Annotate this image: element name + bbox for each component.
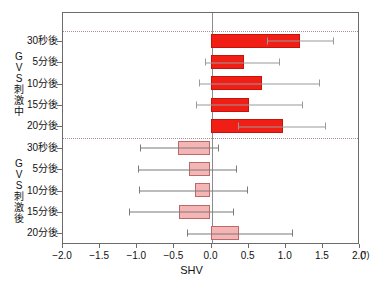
error-bar-cap-high — [279, 59, 280, 66]
error-bar-line — [139, 190, 248, 191]
error-bar-cap-low — [140, 144, 141, 151]
shv-bar-chart: 30秒後5分後10分後15分後20分後30秒後5分後10分後15分後20分後 G… — [0, 0, 383, 285]
y-tick-label: 15分後 — [0, 207, 58, 217]
y-tick-mark — [57, 212, 62, 213]
y-tick-label: 10分後 — [0, 186, 58, 196]
y-tick-mark — [57, 169, 62, 170]
error-bar-cap-high — [236, 166, 237, 173]
x-tick-label: 0.5 — [241, 250, 255, 261]
error-bar-line — [267, 41, 334, 42]
error-bar-20分後 — [187, 230, 293, 237]
y-tick-label: 15分後 — [0, 100, 58, 110]
y-tick-label: 30秒後 — [0, 36, 58, 46]
y-tick-label: 20分後 — [0, 228, 58, 238]
x-tick-label: 0.0 — [204, 250, 218, 261]
error-bar-10分後 — [199, 80, 320, 87]
y-tick-label: 10分後 — [0, 79, 58, 89]
error-bar-5分後 — [138, 166, 237, 173]
error-bar-cap-high — [319, 80, 320, 87]
error-bar-cap-high — [218, 144, 219, 151]
error-bar-5分後 — [205, 59, 279, 66]
y-tick-mark — [57, 233, 62, 234]
error-bar-15分後 — [196, 101, 303, 108]
error-bar-30秒後 — [140, 144, 219, 151]
y-tick-mark — [57, 105, 62, 106]
x-tick-label: −1.0 — [126, 250, 146, 261]
y-tick-mark — [57, 84, 62, 85]
x-tick-mark — [136, 244, 137, 248]
error-bar-cap-high — [333, 37, 334, 44]
x-axis-title: SHV — [0, 264, 383, 276]
x-tick-label: 1.0 — [278, 250, 292, 261]
error-bar-cap-low — [138, 166, 139, 173]
x-tick-mark — [62, 244, 63, 248]
y-tick-mark — [57, 126, 62, 127]
x-tick-mark — [359, 244, 360, 248]
error-bar-line — [238, 126, 326, 127]
error-bar-line — [129, 212, 234, 213]
error-bar-cap-high — [302, 101, 303, 108]
x-axis-unit: (°) — [360, 250, 370, 261]
error-bar-cap-high — [292, 230, 293, 237]
x-tick-mark — [173, 244, 174, 248]
error-bar-line — [140, 148, 219, 149]
error-bar-cap-low — [238, 123, 239, 130]
error-bar-line — [199, 83, 320, 84]
error-bar-cap-low — [196, 101, 197, 108]
error-bar-line — [187, 233, 293, 234]
x-tick-mark — [211, 244, 212, 248]
error-bar-line — [196, 105, 303, 106]
error-bar-30秒後 — [267, 37, 334, 44]
y-tick-mark — [57, 191, 62, 192]
x-tick-label: −0.5 — [164, 250, 184, 261]
x-tick-mark — [322, 244, 323, 248]
x-tick-mark — [285, 244, 286, 248]
error-bar-cap-high — [325, 123, 326, 130]
y-tick-mark — [57, 41, 62, 42]
group-label-2: G V S 刺 激 後 — [12, 158, 26, 224]
y-tick-mark — [57, 148, 62, 149]
x-tick-mark — [99, 244, 100, 248]
error-bar-cap-low — [129, 208, 130, 215]
x-tick-label: 1.5 — [315, 250, 329, 261]
error-bar-cap-low — [199, 80, 200, 87]
y-tick-label: 30秒後 — [0, 143, 58, 153]
error-bar-cap-low — [205, 59, 206, 66]
error-bar-cap-low — [139, 187, 140, 194]
error-bar-cap-low — [187, 230, 188, 237]
error-bar-cap-high — [233, 208, 234, 215]
error-bar-10分後 — [139, 187, 248, 194]
error-bar-cap-low — [267, 37, 268, 44]
x-tick-mark — [248, 244, 249, 248]
error-bar-15分後 — [129, 208, 234, 215]
x-tick-label: −2.0 — [52, 250, 72, 261]
error-bar-20分後 — [238, 123, 326, 130]
error-bar-line — [205, 62, 279, 63]
error-bar-line — [138, 169, 237, 170]
group-label-1: G V S 刺 激 中 — [12, 51, 26, 117]
y-tick-label: 5分後 — [0, 57, 58, 67]
error-bar-cap-high — [247, 187, 248, 194]
y-tick-label: 20分後 — [0, 121, 58, 131]
y-tick-label: 5分後 — [0, 164, 58, 174]
y-tick-mark — [57, 62, 62, 63]
x-tick-label: −1.5 — [89, 250, 109, 261]
